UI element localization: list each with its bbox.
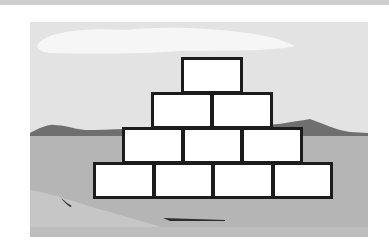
box-label bbox=[244, 130, 300, 161]
box-label bbox=[275, 165, 330, 196]
pyramid-box-row4-1 bbox=[93, 162, 155, 199]
box-label bbox=[185, 130, 240, 161]
box-label bbox=[125, 130, 181, 161]
pyramid-box-row4-3 bbox=[212, 162, 274, 199]
pyramid-box-row3-3 bbox=[241, 127, 303, 164]
box-label bbox=[156, 165, 211, 196]
pyramid-diagram bbox=[0, 0, 389, 245]
pyramid-box-row1-1 bbox=[181, 57, 243, 94]
pyramid-box-row3-2 bbox=[182, 127, 243, 164]
box-label bbox=[214, 95, 270, 126]
pyramid-box-row3-1 bbox=[122, 127, 184, 164]
box-label bbox=[96, 165, 152, 196]
pyramid-box-row2-1 bbox=[151, 92, 213, 129]
box-label bbox=[154, 95, 210, 126]
pyramid-box-row4-2 bbox=[153, 162, 214, 199]
box-label bbox=[215, 165, 271, 196]
pyramid-box-row2-2 bbox=[211, 92, 273, 129]
pyramid-box-row4-4 bbox=[272, 162, 333, 199]
box-label bbox=[184, 60, 240, 91]
